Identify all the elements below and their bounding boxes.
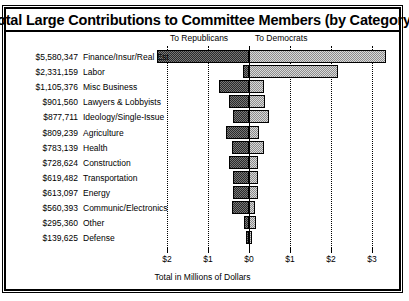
- axis-tick: [372, 248, 373, 253]
- bar-row: [149, 95, 401, 108]
- row-category: Energy: [83, 188, 110, 198]
- row-amount: $2,331,159: [6, 67, 78, 77]
- axis-tick-label: $3: [367, 254, 376, 264]
- bar-segment-republican: [229, 156, 250, 169]
- row-category: Misc Business: [83, 82, 137, 92]
- axis-tick-label: $0: [244, 254, 253, 264]
- bar-segment-democrat: [249, 216, 256, 229]
- row-category: Communic/Electronics: [83, 203, 168, 213]
- row-amount: $809,239: [6, 128, 78, 138]
- bar-row: [149, 126, 401, 139]
- row-amount: $619,482: [6, 173, 78, 183]
- axis-tick-label: $2: [326, 254, 335, 264]
- plot-area: [149, 46, 401, 248]
- bar-segment-democrat: [249, 110, 269, 123]
- chart-title: Total Large Contributions to Committee M…: [6, 9, 399, 30]
- bar-segment-republican: [229, 95, 250, 108]
- axis-tick: [249, 248, 250, 253]
- axis-tick-label: $1: [203, 254, 212, 264]
- bar-segment-democrat: [249, 171, 258, 184]
- title-divider: [6, 30, 399, 32]
- bar-row: [149, 65, 401, 78]
- bar-row: [149, 231, 401, 244]
- bar-segment-republican: [232, 141, 249, 154]
- bar-segment-democrat: [249, 95, 265, 108]
- bar-row: [149, 156, 401, 169]
- row-category: Finance/Insur/Real Est: [83, 52, 169, 62]
- zero-axis-line: [249, 46, 250, 252]
- bar-row: [149, 110, 401, 123]
- axis-tick: [208, 248, 209, 253]
- bar-segment-republican: [233, 171, 249, 184]
- bar-row: [149, 171, 401, 184]
- row-amount: $295,360: [6, 218, 78, 228]
- row-amount: $783,139: [6, 143, 78, 153]
- bar-segment-democrat: [249, 156, 258, 169]
- row-amount: $613,097: [6, 188, 78, 198]
- row-amount: $560,393: [6, 203, 78, 213]
- row-amount: $139,625: [6, 233, 78, 243]
- bar-segment-republican: [226, 126, 249, 139]
- row-amount: $877,711: [6, 112, 78, 122]
- bar-segment-republican: [157, 50, 249, 63]
- bar-row: [149, 50, 401, 63]
- bar-row: [149, 216, 401, 229]
- bar-segment-democrat: [249, 65, 338, 78]
- axis-tick-label: $2: [162, 254, 171, 264]
- row-category: Ideology/Single-Issue: [83, 112, 164, 122]
- bar-segment-democrat: [249, 50, 386, 63]
- bar-segment-democrat: [249, 186, 258, 199]
- x-axis: $2$1$0$1$2$3: [149, 248, 401, 258]
- row-amount: $901,560: [6, 97, 78, 107]
- bar-segment-republican: [233, 110, 249, 123]
- row-category: Defense: [83, 233, 115, 243]
- bar-rows: [149, 46, 401, 248]
- axis-tick-label: $1: [285, 254, 294, 264]
- axis-tick: [167, 248, 168, 253]
- legend-label-democrats: To Democrats: [255, 33, 307, 43]
- bar-segment-democrat: [249, 141, 264, 154]
- row-category: Health: [83, 143, 108, 153]
- bar-row: [149, 80, 401, 93]
- bar-row: [149, 141, 401, 154]
- bar-segment-democrat: [249, 80, 264, 93]
- row-amount: $728,624: [6, 158, 78, 168]
- bar-segment-republican: [219, 80, 249, 93]
- bar-segment-democrat: [249, 126, 259, 139]
- row-category: Construction: [83, 158, 131, 168]
- bar-segment-republican: [232, 201, 249, 214]
- legend-label-republicans: To Republicans: [170, 33, 228, 43]
- row-amount: $1,105,376: [6, 82, 78, 92]
- chart-screenshot: Total Large Contributions to Committee M…: [0, 0, 409, 301]
- axis-tick: [290, 248, 291, 253]
- axis-tick: [331, 248, 332, 253]
- x-axis-title: Total in Millions of Dollars: [6, 272, 399, 282]
- row-category: Lawyers & Lobbyists: [83, 97, 161, 107]
- row-category: Agriculture: [83, 128, 124, 138]
- row-category: Other: [83, 218, 104, 228]
- row-category: Transportation: [83, 173, 138, 183]
- row-category: Labor: [83, 67, 105, 77]
- bar-row: [149, 201, 401, 214]
- bar-row: [149, 186, 401, 199]
- bar-segment-republican: [233, 186, 249, 199]
- row-amount: $5,580,347: [6, 52, 78, 62]
